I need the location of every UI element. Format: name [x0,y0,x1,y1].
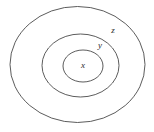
label-z: z [110,25,115,35]
label-y: y [97,40,102,50]
label-x: x [80,60,85,70]
diagram-background [0,0,154,132]
nested-ellipses-diagram: z y x [0,0,154,132]
diagram-canvas: z y x [0,0,154,132]
